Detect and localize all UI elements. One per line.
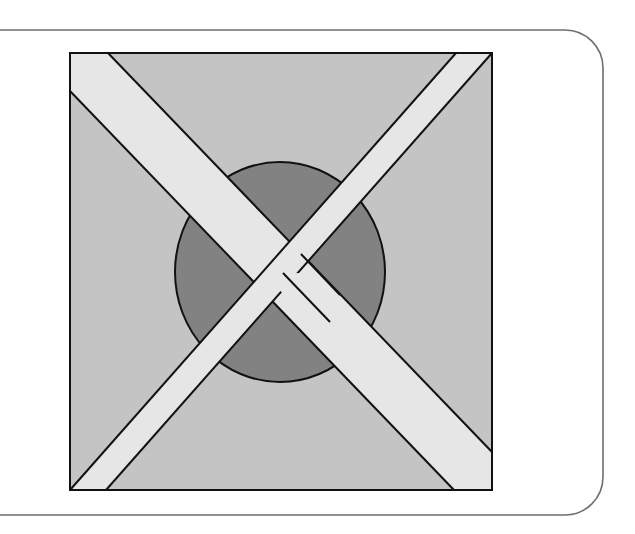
diagram-canvas — [0, 0, 635, 534]
